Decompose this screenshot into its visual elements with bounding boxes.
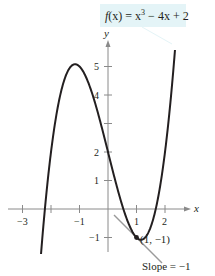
x-tick-label-minus1: −1 xyxy=(74,216,85,227)
x-tick-label-minus3: −3 xyxy=(17,216,28,227)
y-tick-label-5: 5 xyxy=(94,61,99,72)
y-axis-arrow-icon xyxy=(106,40,111,47)
x-tick-label-2: 2 xyxy=(162,216,167,227)
x-tick-label-1: 1 xyxy=(134,216,139,227)
y-tick-label-1: 1 xyxy=(94,175,99,186)
y-axis-label: y xyxy=(103,27,109,39)
callout-leader-line xyxy=(142,27,172,44)
function-graph: f(x) = x3 − 4x + 2 x y −3 −1 1 2 5 4 2 1… xyxy=(0,0,215,276)
slope-label: Slope = −1 xyxy=(142,260,190,272)
y-tick-label-minus1: −1 xyxy=(89,232,100,243)
point-label: (1, −1) xyxy=(140,233,170,246)
tangent-point xyxy=(134,235,139,240)
y-tick-label-2: 2 xyxy=(94,147,99,158)
function-label: f(x) = x3 − 4x + 2 xyxy=(105,8,189,23)
x-axis-label: x xyxy=(193,202,199,214)
x-axis-arrow-icon xyxy=(184,207,191,212)
